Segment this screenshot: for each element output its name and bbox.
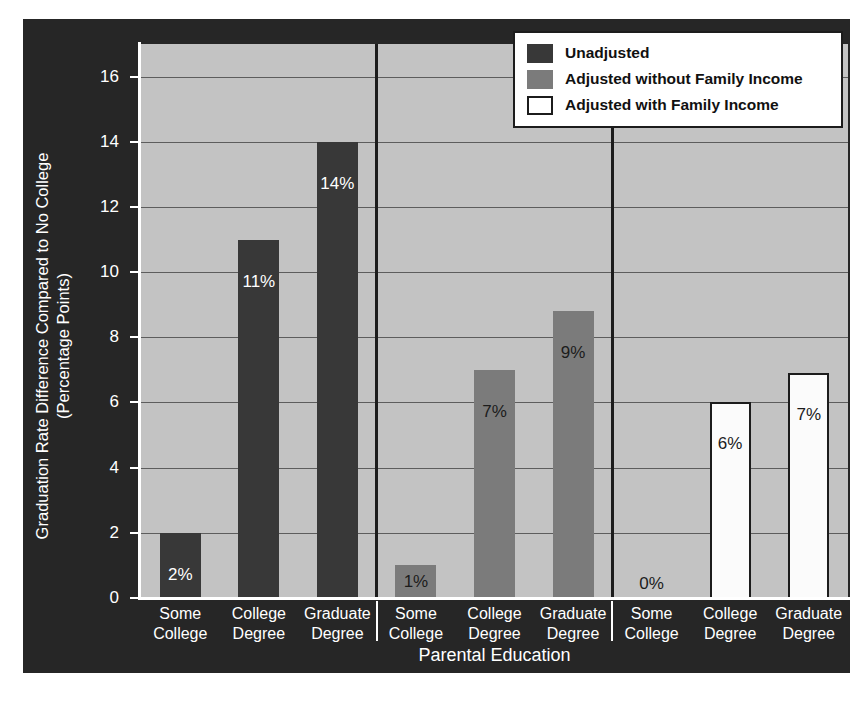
x-category-label: CollegeDegree <box>232 604 286 643</box>
bar-value-label: 7% <box>796 405 821 425</box>
bar-value-label: 1% <box>404 572 429 592</box>
bar-value-label: 2% <box>168 565 193 585</box>
bar[interactable]: 6% <box>710 402 751 598</box>
bar-value-label: 7% <box>482 402 507 422</box>
x-category-label: SomeCollege <box>624 604 678 643</box>
x-category-label-line: Degree <box>540 624 607 644</box>
gridline <box>141 142 848 143</box>
x-category-label-line: Degree <box>467 624 521 644</box>
x-category-label-line: College <box>389 624 443 644</box>
y-tick-label: 10 <box>100 262 119 282</box>
chart-figure: Graduation Rate Difference Compared to N… <box>0 0 868 716</box>
x-category-label: SomeCollege <box>153 604 207 643</box>
x-category-label-line: College <box>624 624 678 644</box>
x-category-label: GraduateDegree <box>775 604 842 643</box>
y-tick-mark <box>130 532 140 534</box>
x-category-label-line: Graduate <box>540 604 607 624</box>
legend-swatch-icon-adjusted-with <box>527 96 553 115</box>
legend-item-adjusted-without-family-income[interactable]: Adjusted without Family Income <box>527 66 831 92</box>
x-category-label-line: Degree <box>232 624 286 644</box>
y-axis-label: Graduation Rate Difference Compared to N… <box>32 153 73 540</box>
y-tick-mark <box>130 271 140 273</box>
x-category-label-line: Degree <box>304 624 371 644</box>
x-category-label-line: College <box>467 604 521 624</box>
bar[interactable]: 9% <box>553 311 594 598</box>
bar[interactable]: 2% <box>160 533 201 598</box>
gridline <box>141 207 848 208</box>
y-tick-label: 14 <box>100 132 119 152</box>
bar-value-label: 0% <box>639 574 664 594</box>
y-tick-label: 2 <box>110 523 119 543</box>
x-category-label-line: Degree <box>775 624 842 644</box>
y-tick-label: 16 <box>100 67 119 87</box>
y-tick-label: 4 <box>110 458 119 478</box>
group-separator <box>375 44 378 598</box>
y-tick-mark <box>130 206 140 208</box>
x-category-label-line: Some <box>624 604 678 624</box>
legend-swatch-icon-adjusted-without <box>527 70 553 89</box>
x-category-label: CollegeDegree <box>467 604 521 643</box>
bar[interactable]: 1% <box>395 565 436 598</box>
x-category-label-line: Graduate <box>304 604 371 624</box>
x-axis-label: Parental Education <box>141 645 848 666</box>
bar[interactable]: 11% <box>238 240 279 598</box>
legend-label-adjusted-without: Adjusted without Family Income <box>565 70 803 88</box>
bar-value-label: 14% <box>320 174 354 194</box>
x-category-label-line: College <box>703 604 757 624</box>
x-category-label: GraduateDegree <box>540 604 607 643</box>
y-tick-mark <box>130 401 140 403</box>
x-label-group-separator <box>611 601 613 641</box>
y-axis-label-line2: (Percentage Points) <box>53 153 74 540</box>
y-axis-label-container: Graduation Rate Difference Compared to N… <box>23 19 83 673</box>
x-label-group-separator <box>376 601 378 641</box>
x-axis-line <box>138 597 850 600</box>
legend-label-adjusted-with: Adjusted with Family Income <box>565 96 779 114</box>
y-tick-label: 8 <box>110 327 119 347</box>
chart-legend: Unadjusted Adjusted without Family Incom… <box>513 31 843 128</box>
bar[interactable]: 7% <box>474 370 515 598</box>
x-category-label-line: Graduate <box>775 604 842 624</box>
x-category-label: GraduateDegree <box>304 604 371 643</box>
bar-value-label: 6% <box>718 434 743 454</box>
y-tick-mark <box>130 336 140 338</box>
y-axis-label-line1: Graduation Rate Difference Compared to N… <box>32 153 53 540</box>
x-category-label-line: College <box>232 604 286 624</box>
bar[interactable]: 7% <box>788 373 829 598</box>
x-category-label-line: Degree <box>703 624 757 644</box>
x-category-label-line: College <box>153 624 207 644</box>
legend-item-adjusted-with-family-income[interactable]: Adjusted with Family Income <box>527 92 831 118</box>
legend-item-unadjusted[interactable]: Unadjusted <box>527 40 831 66</box>
y-tick-label: 12 <box>100 197 119 217</box>
x-category-label: SomeCollege <box>389 604 443 643</box>
legend-label-unadjusted: Unadjusted <box>565 44 649 62</box>
y-tick-mark <box>130 597 140 599</box>
y-tick-mark <box>130 141 140 143</box>
bar-value-label: 9% <box>561 343 586 363</box>
y-axis-line <box>138 42 141 600</box>
bar-value-label: 11% <box>242 272 275 292</box>
y-tick-mark <box>130 467 140 469</box>
x-category-label: CollegeDegree <box>703 604 757 643</box>
y-tick-label: 6 <box>110 392 119 412</box>
y-tick-mark <box>130 76 140 78</box>
x-category-label-line: Some <box>153 604 207 624</box>
y-tick-label: 0 <box>110 588 119 608</box>
x-category-label-line: Some <box>389 604 443 624</box>
legend-swatch-icon-unadjusted <box>527 44 553 63</box>
bar[interactable]: 14% <box>317 142 358 598</box>
